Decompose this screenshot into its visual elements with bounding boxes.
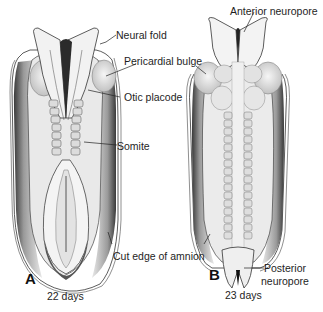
label-posterior-neuropore-line2: neuropore — [261, 275, 309, 287]
label-pericardial-bulge: Pericardial bulge — [124, 55, 202, 67]
panel-age-b: 23 days — [225, 289, 262, 301]
panel-letter-a: A — [25, 270, 36, 287]
label-cut-edge-of-amnion: Cut edge of amnion — [113, 250, 205, 262]
label-otic-placode: Otic placode — [124, 91, 182, 103]
label-anterior-neuropore: Anterior neuropore — [230, 5, 318, 17]
label-posterior-neuropore-line1: Posterior — [264, 262, 306, 274]
panel-age-a: 22 days — [47, 290, 84, 302]
label-neural-fold: Neural fold — [116, 29, 167, 41]
panel-letter-b: B — [209, 266, 220, 283]
embryo-a — [10, 28, 121, 293]
label-somite: Somite — [117, 140, 150, 152]
